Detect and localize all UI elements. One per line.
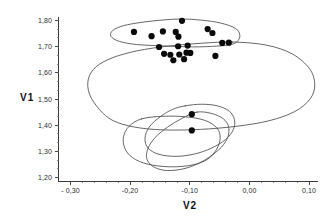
x-axis-title: V2 <box>183 200 197 211</box>
scatter-plot-figure: 1,201,301,401,501,601,701,80- 0,30-0,20-… <box>0 0 326 216</box>
y-axis-title: V1 <box>20 92 34 103</box>
axis-title-layer: V1 V2 <box>0 0 326 216</box>
